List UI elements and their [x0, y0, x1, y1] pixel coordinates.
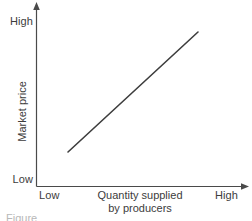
- y-axis-title: Market price: [17, 59, 28, 165]
- supply-curve-line: [68, 32, 198, 152]
- x-axis-title-line-1: Quantity supplied: [62, 189, 218, 202]
- x-axis-arrow-icon: [241, 183, 249, 190]
- x-axis-tick-high: High: [215, 190, 238, 201]
- supply-curve-figure: High Low Market price Low High Quantity …: [0, 0, 252, 221]
- x-axis-tick-low: Low: [39, 190, 59, 201]
- y-axis-arrow-icon: [33, 2, 40, 10]
- figure-caption-partial: Figure: [6, 212, 246, 221]
- y-axis-tick-low: Low: [13, 174, 33, 185]
- y-axis-tick-high: High: [10, 16, 33, 27]
- plot-canvas: [0, 0, 252, 221]
